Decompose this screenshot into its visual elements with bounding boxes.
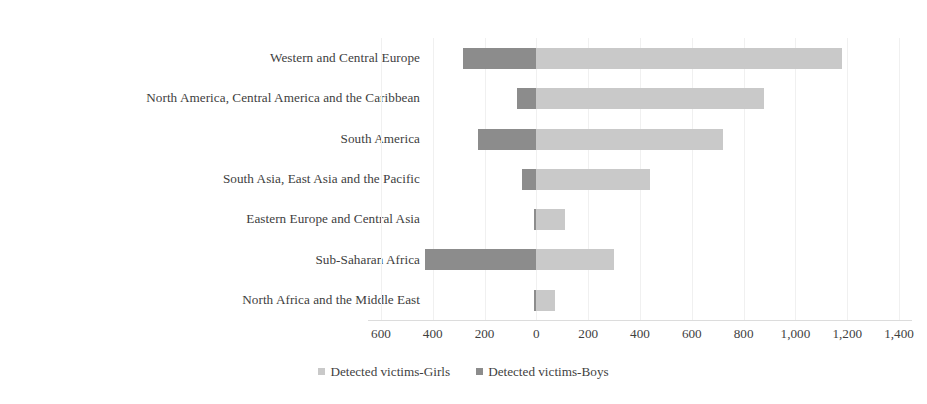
plot-area <box>368 38 912 320</box>
bar-segment-girls <box>536 129 723 150</box>
bar-row <box>368 239 912 279</box>
x-tick-label: 0 <box>533 326 540 342</box>
category-label: Eastern Europe and Central Asia <box>0 212 420 226</box>
bar-row <box>368 78 912 118</box>
legend-swatch-girls-icon <box>318 368 325 375</box>
bar-segment-girls <box>536 290 554 311</box>
category-label: South Asia, East Asia and the Pacific <box>0 172 420 186</box>
bar-segment-girls <box>536 169 650 190</box>
category-label: North America, Central America and the C… <box>0 91 420 105</box>
x-tick-label: 400 <box>630 326 650 342</box>
legend-item-girls: Detected victims-Girls <box>318 364 450 380</box>
bar-row <box>368 159 912 199</box>
x-tick-label: 600 <box>682 326 702 342</box>
category-label: North Africa and the Middle East <box>0 293 420 307</box>
legend-label-girls: Detected victims-Girls <box>330 364 450 380</box>
legend-label-boys: Detected victims-Boys <box>488 364 609 380</box>
category-label: Sub-Saharan Africa <box>0 253 420 267</box>
x-tick-label: 400 <box>423 326 443 342</box>
x-tick-label: 800 <box>734 326 754 342</box>
x-tick-label: 1,200 <box>832 326 862 342</box>
x-tick-label: 1,400 <box>884 326 914 342</box>
stacked-bar-chart: Western and Central Europe North America… <box>0 0 927 404</box>
bar-segment-boys <box>463 48 537 69</box>
bar-segment-boys <box>425 249 536 270</box>
bar-segment-girls <box>536 209 564 230</box>
chart-legend: Detected victims-Girls Detected victims-… <box>0 364 927 380</box>
x-tick-label: 200 <box>578 326 598 342</box>
legend-item-boys: Detected victims-Boys <box>476 364 609 380</box>
bar-segment-girls <box>536 48 842 69</box>
bar-row <box>368 119 912 159</box>
bar-segment-boys <box>517 88 536 109</box>
bar-row <box>368 38 912 78</box>
category-label: Western and Central Europe <box>0 51 420 65</box>
bar-segment-boys <box>478 129 536 150</box>
x-tick-label: 200 <box>475 326 495 342</box>
x-axis-tick-labels: 60040020002004006008001,0001,2001,400 <box>368 326 912 348</box>
bar-segment-girls <box>536 249 614 270</box>
bar-row <box>368 280 912 320</box>
bar-segment-girls <box>536 88 764 109</box>
legend-swatch-boys-icon <box>476 368 483 375</box>
bar-row <box>368 199 912 239</box>
x-axis-line <box>368 320 912 321</box>
category-axis-labels: Western and Central Europe North America… <box>0 38 428 320</box>
x-tick-label: 600 <box>371 326 391 342</box>
x-tick-label: 1,000 <box>781 326 811 342</box>
category-label: South America <box>0 132 420 146</box>
bar-segment-boys <box>522 169 536 190</box>
